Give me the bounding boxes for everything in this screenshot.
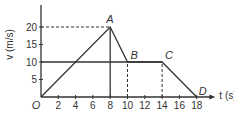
- x-tick-label: 12: [139, 100, 151, 111]
- x-tick-label: 16: [174, 100, 186, 111]
- origin-label: O: [32, 99, 41, 111]
- series-lines: [41, 27, 197, 97]
- point-label-D: D: [199, 85, 207, 97]
- y-tick-label: 10: [26, 57, 38, 68]
- x-tick-label: 14: [157, 100, 169, 111]
- x-tick-label: 4: [73, 100, 79, 111]
- y-tick-label: 15: [26, 39, 38, 50]
- point-label-A: A: [105, 13, 113, 25]
- x-tick-label: 8: [107, 100, 113, 111]
- x-axis-label: t (s): [219, 90, 234, 101]
- velocity-time-chart: 246810121416185101520t (s)v (m/s)OABCD: [0, 0, 234, 118]
- y-tick-label: 20: [26, 22, 38, 33]
- x-tick-label: 2: [56, 100, 62, 111]
- x-tick-label: 6: [90, 100, 96, 111]
- x-axis-arrow-icon: [209, 95, 215, 100]
- x-tick-label: 10: [122, 100, 134, 111]
- point-label-B: B: [131, 49, 138, 61]
- y-axis-label: v (m/s): [4, 29, 15, 60]
- y-tick-label: 5: [31, 74, 37, 85]
- point-label-C: C: [165, 49, 173, 61]
- x-tick-label: 18: [191, 100, 203, 111]
